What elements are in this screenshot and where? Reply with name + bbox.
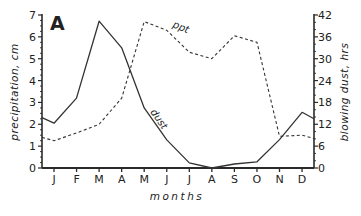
- x-tick-label: O: [253, 173, 262, 186]
- x-axis-ticks: JFMAMJJASOND: [51, 168, 306, 186]
- x-tick-label: J: [164, 173, 168, 186]
- left-axis-title: precipitation, cm: [8, 43, 20, 142]
- x-tick-label: J: [187, 173, 191, 186]
- left-tick-label: 6: [29, 31, 36, 44]
- right-tick-label: 36: [318, 31, 332, 44]
- left-tick-label: 0: [29, 162, 36, 175]
- x-tick-label: D: [298, 173, 306, 186]
- x-tick-label: A: [208, 173, 216, 186]
- x-tick-label: F: [73, 173, 79, 186]
- right-tick-label: 12: [318, 118, 332, 131]
- left-tick-label: 3: [29, 96, 36, 109]
- panel-label: A: [50, 12, 65, 34]
- left-tick-label: 7: [29, 9, 36, 22]
- x-tick-label: M: [94, 173, 104, 186]
- chart: 01234567 06121824303642 JFMAMJJASOND A m…: [0, 0, 361, 216]
- right-axis-title: blowing dust, hrs: [338, 43, 350, 142]
- right-tick-label: 24: [318, 75, 332, 88]
- right-tick-label: 0: [318, 162, 325, 175]
- x-tick-label: J: [51, 173, 55, 186]
- x-tick-label: M: [139, 173, 149, 186]
- dust-line: [42, 21, 314, 168]
- ppt-line: [42, 22, 314, 141]
- left-tick-label: 2: [29, 118, 36, 131]
- right-tick-label: 6: [318, 140, 325, 153]
- right-tick-label: 18: [318, 96, 332, 109]
- x-tick-label: A: [118, 173, 126, 186]
- axes: [42, 14, 314, 168]
- left-tick-label: 1: [29, 140, 36, 153]
- x-axis-title: months: [150, 190, 205, 202]
- right-axis-ticks: 06121824303642: [314, 9, 332, 175]
- left-axis-ticks: 01234567: [29, 9, 42, 175]
- right-tick-label: 42: [318, 9, 332, 22]
- left-tick-label: 5: [29, 53, 36, 66]
- x-tick-label: N: [275, 173, 283, 186]
- right-tick-label: 30: [318, 53, 332, 66]
- left-tick-label: 4: [29, 75, 36, 88]
- series-lines: [42, 21, 314, 168]
- x-tick-label: S: [231, 173, 238, 186]
- ppt-line-label: ppt: [170, 18, 191, 35]
